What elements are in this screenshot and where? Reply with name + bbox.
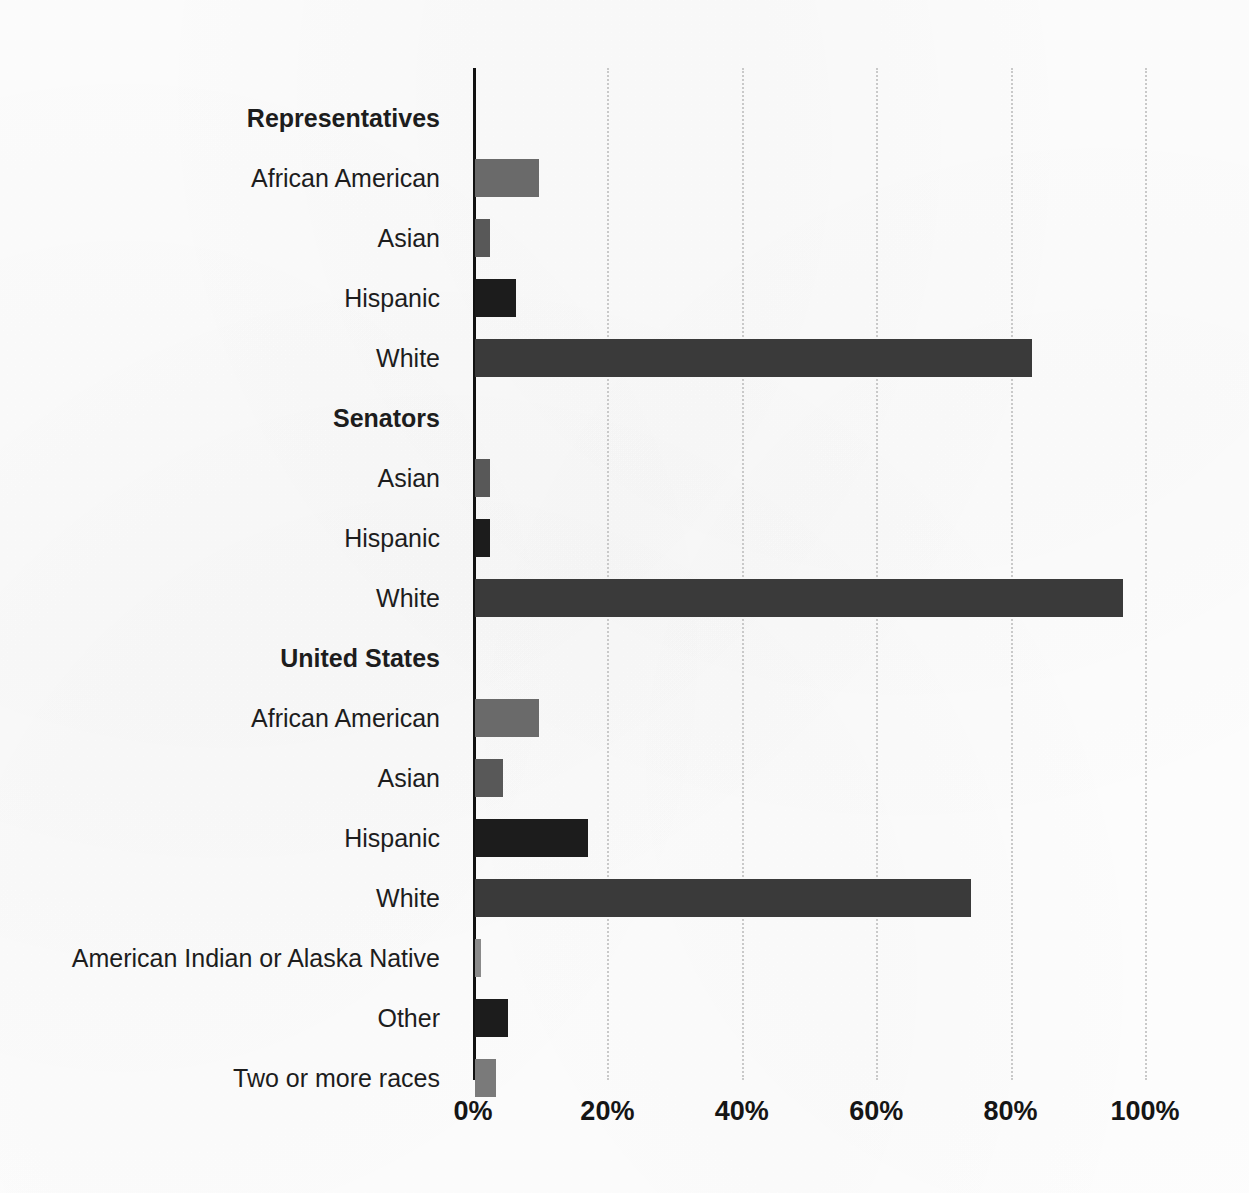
bar-row: White	[0, 568, 1249, 628]
bar-row: Asian	[0, 448, 1249, 508]
x-axis-tick-labels: 0%20%40%60%80%100%	[0, 1092, 1249, 1136]
category-label: Asian	[0, 448, 458, 508]
category-label: African American	[0, 688, 458, 748]
bar-row: Asian	[0, 208, 1249, 268]
bar-row: Other	[0, 988, 1249, 1048]
category-label: Asian	[0, 208, 458, 268]
category-label: American Indian or Alaska Native	[0, 928, 458, 988]
bar-row: African American	[0, 688, 1249, 748]
bar	[475, 339, 1032, 377]
category-label: African American	[0, 148, 458, 208]
bar-row: American Indian or Alaska Native	[0, 928, 1249, 988]
bar	[475, 459, 490, 497]
bar	[475, 999, 508, 1037]
group-label: Senators	[0, 388, 458, 448]
bar-row: Asian	[0, 748, 1249, 808]
x-tick-label: 40%	[672, 1092, 812, 1130]
category-label: Asian	[0, 748, 458, 808]
bar	[475, 759, 503, 797]
x-tick-label: 0%	[403, 1092, 543, 1130]
group-heading-row: Senators	[0, 388, 1249, 448]
x-tick-label: 100%	[1075, 1092, 1215, 1130]
bar	[475, 819, 588, 857]
x-tick-label: 60%	[806, 1092, 946, 1130]
category-label: Hispanic	[0, 808, 458, 868]
category-label: Other	[0, 988, 458, 1048]
bar	[475, 219, 490, 257]
bar-row: Hispanic	[0, 808, 1249, 868]
category-label: White	[0, 568, 458, 628]
bar-row: African American	[0, 148, 1249, 208]
bar	[475, 279, 516, 317]
x-tick-label: 80%	[941, 1092, 1081, 1130]
category-label: Hispanic	[0, 268, 458, 328]
bar-row: Hispanic	[0, 268, 1249, 328]
bar	[475, 699, 539, 737]
bar	[475, 879, 971, 917]
bar	[475, 159, 539, 197]
group-label: United States	[0, 628, 458, 688]
category-label: Hispanic	[0, 508, 458, 568]
category-label: White	[0, 328, 458, 388]
bar-chart-figure: RepresentativesAfrican AmericanAsianHisp…	[0, 0, 1249, 1193]
x-tick-label: 20%	[537, 1092, 677, 1130]
group-label: Representatives	[0, 88, 458, 148]
bar-row: Hispanic	[0, 508, 1249, 568]
group-heading-row: Representatives	[0, 88, 1249, 148]
bar	[475, 579, 1123, 617]
bar-row: White	[0, 868, 1249, 928]
category-label: White	[0, 868, 458, 928]
bar	[475, 939, 481, 977]
bar-row: White	[0, 328, 1249, 388]
bar	[475, 519, 490, 557]
group-heading-row: United States	[0, 628, 1249, 688]
